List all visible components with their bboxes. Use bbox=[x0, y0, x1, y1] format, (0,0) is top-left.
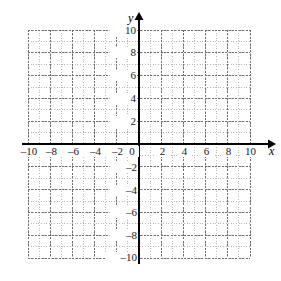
x-tick-label: 8 bbox=[221, 146, 236, 157]
x-tick-label: 6 bbox=[199, 146, 214, 157]
x-tick-label: –10 bbox=[16, 146, 42, 157]
y-tick-label: –10 bbox=[105, 252, 138, 263]
x-tick-label: –6 bbox=[62, 146, 85, 157]
coordinate-plane: –10 –8 –6 –4 –2 0 2 4 6 8 10 10 8 6 4 2 … bbox=[0, 0, 281, 281]
y-tick-label: 2 bbox=[110, 116, 137, 127]
x-tick-label: 2 bbox=[155, 146, 170, 157]
x-tick-label: –8 bbox=[40, 146, 63, 157]
x-tick-label: 4 bbox=[177, 146, 192, 157]
y-tick-label: –8 bbox=[110, 230, 138, 241]
y-tick-label: –4 bbox=[110, 185, 138, 196]
y-axis-arrow bbox=[135, 12, 144, 20]
y-tick-label: 8 bbox=[110, 47, 137, 58]
y-tick-label: 6 bbox=[110, 70, 137, 81]
y-tick-label: 4 bbox=[110, 93, 137, 104]
grid-svg bbox=[0, 0, 281, 281]
x-tick-label: 10 bbox=[240, 146, 261, 157]
y-tick-label: –2 bbox=[110, 162, 138, 173]
y-tick-label: 10 bbox=[110, 25, 137, 36]
x-axis-label: x bbox=[269, 145, 274, 157]
x-tick-label-origin: 0 bbox=[125, 146, 139, 157]
y-tick-label: –6 bbox=[110, 207, 138, 218]
y-axis-label: y bbox=[128, 12, 133, 24]
x-tick-label: –4 bbox=[84, 146, 107, 157]
